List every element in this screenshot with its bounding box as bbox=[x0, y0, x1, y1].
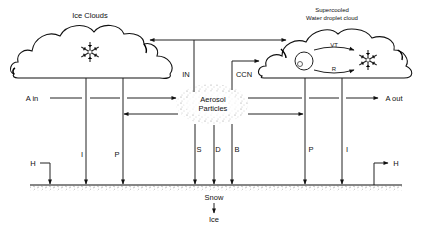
h-out-flow: H bbox=[374, 159, 399, 185]
a-out-label: A out bbox=[385, 94, 403, 103]
ccn-flow: CCN bbox=[232, 61, 259, 90]
h-left-label: H bbox=[30, 159, 35, 168]
water-cloud-label-1: Supercooled bbox=[315, 7, 349, 13]
ccn-label: CCN bbox=[236, 70, 252, 79]
ice-p-label: P bbox=[114, 150, 119, 159]
a-out-flow: A out bbox=[248, 94, 403, 103]
ice-cloud-label: Ice Clouds bbox=[72, 11, 108, 20]
d-label: D bbox=[215, 145, 221, 154]
a-in-flow: A in bbox=[26, 94, 176, 103]
aerosol-cloud-diagram: Ice Clouds Supercooled Water droplet clo… bbox=[0, 0, 430, 229]
aerosol-label-2: Particles bbox=[199, 104, 228, 113]
snow-surface: Snow Ice bbox=[30, 185, 402, 224]
r-label: R bbox=[332, 66, 337, 72]
water-cloud-label-2: Water droplet cloud bbox=[306, 15, 358, 21]
aerosol-label-1: Aerosol bbox=[200, 95, 226, 104]
in-label: IN bbox=[182, 70, 190, 79]
ice-label: Ice bbox=[209, 215, 219, 224]
h-right-label: H bbox=[393, 159, 398, 168]
ice-cloud: Ice Clouds bbox=[11, 11, 173, 78]
droplet-circle-icon bbox=[295, 52, 313, 70]
vt-label: VT bbox=[330, 42, 338, 48]
water-p-label: P bbox=[308, 145, 313, 154]
h-in-flow: H bbox=[30, 159, 50, 184]
water-cloud: Supercooled Water droplet cloud VT R bbox=[259, 7, 412, 78]
snow-label: Snow bbox=[205, 193, 224, 202]
aerosol-particles: Aerosol Particles bbox=[176, 84, 248, 124]
ice-i-label: I bbox=[81, 150, 83, 159]
water-i-label: I bbox=[346, 145, 348, 154]
s-label: S bbox=[196, 145, 201, 154]
a-in-label: A in bbox=[26, 94, 39, 103]
b-label: B bbox=[234, 145, 239, 154]
